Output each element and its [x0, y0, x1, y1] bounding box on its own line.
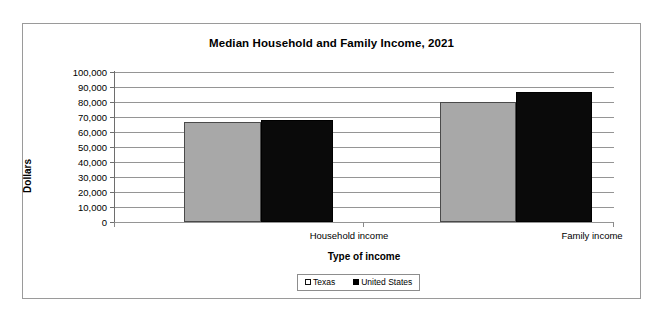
- y-axis-title: Dollars: [22, 136, 33, 216]
- x-axis-title: Type of income: [114, 251, 614, 262]
- y-axis-tick: [110, 132, 115, 133]
- bar-household-income-united-states: [261, 120, 333, 222]
- y-axis-tick: [110, 207, 115, 208]
- legend-label-united-states: United States: [361, 277, 412, 287]
- gridline: [114, 222, 614, 223]
- x-axis-tick: [613, 222, 614, 227]
- y-axis-tick: [110, 87, 115, 88]
- y-axis-tick: [110, 102, 115, 103]
- y-axis-tick-label: 10,000: [78, 202, 107, 213]
- legend-item-texas: Texas: [305, 277, 335, 287]
- x-axis-tick: [114, 222, 115, 227]
- y-axis-tick-label: 20,000: [78, 187, 107, 198]
- y-axis-tick: [110, 147, 115, 148]
- y-axis-tick: [110, 162, 115, 163]
- y-axis-tick-label: 70,000: [78, 112, 107, 123]
- gridline: [114, 72, 614, 73]
- y-axis-tick-label: 50,000: [78, 142, 107, 153]
- y-axis-tick-label: 40,000: [78, 157, 107, 168]
- y-axis-tick: [110, 72, 115, 73]
- gridline: [114, 87, 614, 88]
- chart-title: Median Household and Family Income, 2021: [23, 37, 640, 49]
- plot-area: 100,00090,00080,00070,00060,00050,00040,…: [114, 72, 614, 222]
- legend-swatch-texas: [305, 279, 311, 285]
- chart-legend: Texas United States: [297, 274, 420, 291]
- x-axis-tick-label: Family income: [561, 230, 622, 241]
- y-axis-tick: [110, 117, 115, 118]
- y-axis-tick: [110, 177, 115, 178]
- y-axis-tick-label: 100,000: [73, 67, 107, 78]
- chart-frame: Median Household and Family Income, 2021…: [22, 23, 641, 299]
- legend-swatch-united-states: [353, 279, 359, 285]
- legend-item-united-states: United States: [353, 277, 412, 287]
- plot-inner: 100,00090,00080,00070,00060,00050,00040,…: [114, 72, 614, 222]
- y-axis-tick-label: 60,000: [78, 127, 107, 138]
- x-axis-tick-label: Household income: [310, 230, 389, 241]
- y-axis-tick: [110, 192, 115, 193]
- bar-family-income-texas: [440, 102, 516, 222]
- bar-household-income-texas: [184, 122, 261, 223]
- x-axis-tick: [363, 222, 364, 227]
- y-axis-tick-label: 80,000: [78, 97, 107, 108]
- y-axis-tick-label: 0: [102, 217, 107, 228]
- legend-label-texas: Texas: [313, 277, 335, 287]
- bar-family-income-united-states: [516, 92, 592, 223]
- y-axis-tick-label: 90,000: [78, 82, 107, 93]
- y-axis-tick-label: 30,000: [78, 172, 107, 183]
